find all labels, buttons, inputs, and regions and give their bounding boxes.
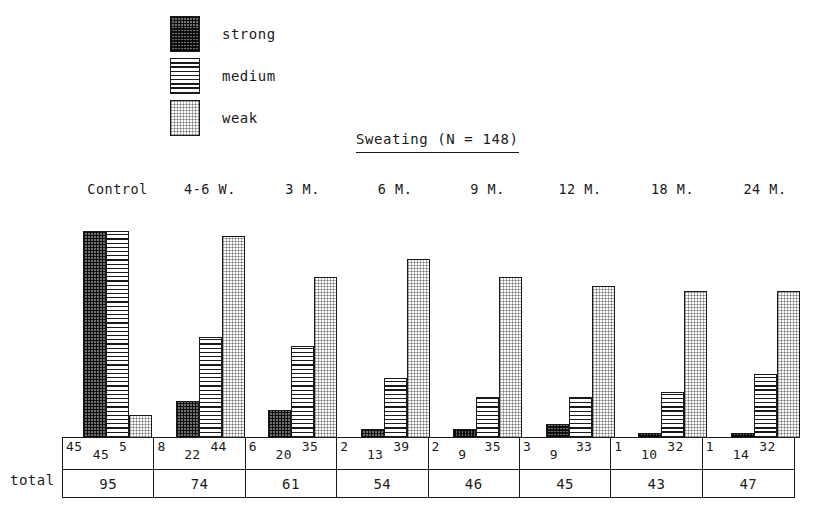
table-value-strong: 2 [432, 439, 440, 454]
bar-weak [684, 291, 707, 438]
total-row-label: total [10, 472, 55, 488]
table-value-medium: 10 [641, 447, 657, 462]
x-axis-label-0: Control [87, 181, 147, 197]
bar-strong [83, 231, 106, 438]
plot-area [60, 210, 800, 438]
table-value-strong: 3 [523, 439, 531, 454]
table-value-weak: 32 [667, 439, 683, 454]
bar-strong [638, 433, 661, 438]
bar-medium [754, 374, 777, 438]
bar-medium [199, 337, 222, 438]
bar-weak [592, 286, 615, 438]
legend-item-strong: strong [170, 16, 276, 52]
bar-weak [407, 259, 430, 438]
bar-strong [268, 410, 291, 438]
chart-canvas: strong medium weak Sweating (N = 148) Co… [0, 0, 840, 529]
legend-item-weak: weak [170, 100, 276, 136]
table-cell-total: 74 [154, 470, 245, 497]
table-cell-values: 3933 [520, 438, 611, 469]
chart-legend: strong medium weak [170, 16, 276, 142]
x-axis-label-2: 3 M. [285, 181, 320, 197]
bar-medium [384, 378, 407, 438]
table-value-medium: 14 [733, 447, 749, 462]
data-table: 45455822446203521339293539331103211432 9… [62, 437, 795, 498]
legend-swatch-weak-icon [170, 100, 200, 136]
table-cell-total: 43 [611, 470, 702, 497]
chart-title: Sweating (N = 148) [356, 131, 519, 153]
table-value-weak: 5 [119, 439, 127, 454]
x-axis-labels: Control4-6 W.3 M.6 M.9 M.12 M.18 M.24 M. [60, 181, 800, 201]
bar-medium [661, 392, 684, 438]
x-axis-label-7: 24 M. [743, 181, 786, 197]
bar-strong [361, 429, 384, 438]
table-value-weak: 39 [393, 439, 409, 454]
table-row-totals: 9574615446454347 [63, 469, 794, 497]
legend-swatch-medium-icon [170, 58, 200, 94]
table-cell-values: 45455 [63, 438, 154, 469]
table-value-strong: 6 [249, 439, 257, 454]
table-value-medium: 13 [367, 447, 383, 462]
table-cell-values: 2935 [429, 438, 520, 469]
table-cell-values: 62035 [246, 438, 337, 469]
table-value-weak: 44 [210, 439, 226, 454]
table-value-weak: 32 [759, 439, 775, 454]
table-cell-total: 45 [520, 470, 611, 497]
table-value-strong: 2 [340, 439, 348, 454]
legend-label-strong: strong [222, 26, 276, 42]
table-value-strong: 45 [66, 439, 82, 454]
bar-strong [453, 429, 476, 438]
legend-label-medium: medium [222, 68, 276, 84]
bar-weak [777, 291, 800, 438]
x-axis-label-6: 18 M. [651, 181, 694, 197]
table-value-weak: 35 [485, 439, 501, 454]
table-cell-total: 54 [337, 470, 428, 497]
table-value-medium: 22 [184, 447, 200, 462]
table-value-medium: 20 [276, 447, 292, 462]
table-value-strong: 8 [157, 439, 165, 454]
x-axis-label-4: 9 M. [470, 181, 505, 197]
table-cell-values: 82244 [154, 438, 245, 469]
legend-swatch-strong-icon [170, 16, 200, 52]
bar-medium [569, 397, 592, 438]
x-axis-label-3: 6 M. [378, 181, 413, 197]
table-value-strong: 1 [706, 439, 714, 454]
bar-medium [291, 346, 314, 438]
legend-label-weak: weak [222, 110, 258, 126]
table-value-weak: 33 [576, 439, 592, 454]
table-cell-values: 21339 [337, 438, 428, 469]
table-cell-values: 11432 [703, 438, 794, 469]
bar-strong [546, 424, 569, 438]
table-cell-total: 47 [703, 470, 794, 497]
x-axis-label-1: 4-6 W. [184, 181, 236, 197]
table-cell-total: 61 [246, 470, 337, 497]
bar-medium [106, 231, 129, 438]
table-value-medium: 9 [458, 447, 466, 462]
table-value-strong: 1 [614, 439, 622, 454]
bar-weak [314, 277, 337, 438]
legend-item-medium: medium [170, 58, 276, 94]
table-value-medium: 9 [550, 447, 558, 462]
bar-weak [499, 277, 522, 438]
bar-weak [129, 415, 152, 438]
x-axis-label-5: 12 M. [558, 181, 601, 197]
table-value-weak: 35 [302, 439, 318, 454]
table-cell-values: 11032 [611, 438, 702, 469]
bar-strong [176, 401, 199, 438]
table-cell-total: 95 [63, 470, 154, 497]
bar-weak [222, 236, 245, 438]
table-row-values: 45455822446203521339293539331103211432 [63, 438, 794, 469]
bar-strong [731, 433, 754, 438]
table-value-medium: 45 [93, 447, 109, 462]
table-cell-total: 46 [429, 470, 520, 497]
bar-medium [476, 397, 499, 438]
